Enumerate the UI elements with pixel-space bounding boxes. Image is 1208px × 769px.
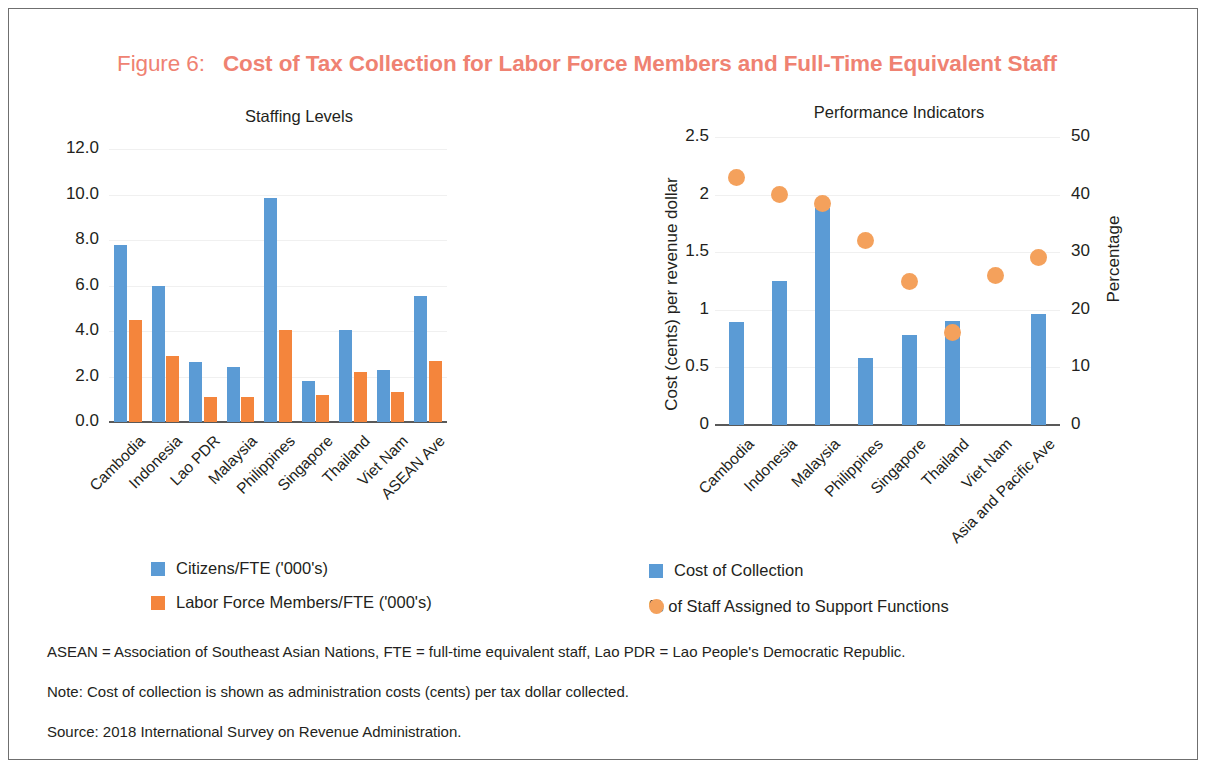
y-axis-tick-label: 2.5: [633, 126, 709, 146]
bar: [1031, 314, 1046, 425]
bar: [729, 322, 744, 425]
y-axis-tick-label: 0.5: [633, 356, 709, 376]
legend-label: Citizens/FTE ('000's): [176, 559, 328, 578]
data-point: [987, 267, 1004, 284]
bar: [264, 198, 277, 422]
figure-frame: Figure 6:Cost of Tax Collection for Labo…: [8, 8, 1198, 760]
legend-item: Cost of Collection: [649, 561, 803, 580]
y-axis-tick-label: 2.0: [23, 366, 99, 386]
gridline: [715, 367, 1060, 368]
footnote-note: Note: Cost of collection is shown as adm…: [47, 683, 629, 700]
data-point: [944, 324, 961, 341]
bar: [227, 367, 240, 422]
y-axis-tick-label: 10.0: [23, 184, 99, 204]
figure-title: Figure 6:Cost of Tax Collection for Labo…: [117, 51, 1097, 83]
legend-circle-icon: [649, 599, 664, 614]
data-point: [857, 232, 874, 249]
bar: [772, 281, 787, 425]
y-axis-tick-label: 8.0: [23, 229, 99, 249]
data-point: [901, 273, 918, 290]
y-axis-title-cost: Cost (cents) per revenue dollar: [662, 169, 682, 419]
y-axis-tick-label: 0.0: [23, 411, 99, 431]
legend-square-icon: [151, 562, 165, 576]
bar: [414, 296, 427, 422]
data-point: [728, 169, 745, 186]
y2-axis-tick-label: 0: [1071, 414, 1131, 434]
bar: [429, 361, 442, 422]
footnote-source: Source: 2018 International Survey on Rev…: [47, 723, 461, 740]
chart-staffing-levels: Staffing Levels CambodiaIndonesiaLao PDR…: [9, 99, 569, 549]
x-axis-line: [715, 424, 1060, 426]
y-axis-tick-label: 1.5: [633, 241, 709, 261]
legend-item: % of Staff Assigned to Support Functions: [649, 597, 949, 616]
bar: [354, 372, 367, 422]
y2-axis-tick-label: 30: [1071, 241, 1131, 261]
bar: [166, 356, 179, 422]
data-point: [771, 186, 788, 203]
legend-label: Labor Force Members/FTE ('000's): [176, 593, 432, 612]
chart-title-staffing: Staffing Levels: [89, 107, 509, 126]
bar: [391, 392, 404, 422]
gridline: [109, 240, 447, 241]
bar: [815, 208, 830, 425]
data-point: [814, 195, 831, 212]
bar: [189, 362, 202, 422]
legend-square-icon: [151, 596, 165, 610]
y2-axis-tick-label: 20: [1071, 299, 1131, 319]
figure-title-text: Cost of Tax Collection for Labor Force M…: [223, 51, 1057, 76]
legend-square-icon: [649, 564, 663, 578]
bar: [316, 395, 329, 422]
legend-item: Citizens/FTE ('000's): [151, 559, 328, 578]
bar: [339, 330, 352, 422]
bar: [902, 335, 917, 425]
legend-item: Labor Force Members/FTE ('000's): [151, 593, 432, 612]
chart-title-performance: Performance Indicators: [709, 103, 1089, 122]
bar: [241, 397, 254, 422]
y2-axis-tick-label: 50: [1071, 126, 1131, 146]
y2-axis-tick-label: 40: [1071, 184, 1131, 204]
gridline: [715, 137, 1060, 138]
plot-area-performance: [715, 137, 1060, 425]
footnote-abbreviations: ASEAN = Association of Southeast Asian N…: [47, 643, 905, 660]
bar: [204, 397, 217, 422]
gridline: [715, 310, 1060, 311]
bar: [858, 358, 873, 425]
y-axis-tick-label: 12.0: [23, 138, 99, 158]
y-axis-tick-label: 1: [633, 299, 709, 319]
gridline: [109, 149, 447, 150]
gridline: [715, 195, 1060, 196]
gridline: [109, 195, 447, 196]
legend-label: % of Staff Assigned to Support Functions: [649, 597, 949, 616]
bar: [302, 381, 315, 422]
y-axis-tick-label: 6.0: [23, 275, 99, 295]
y-axis-tick-label: 0: [633, 414, 709, 434]
gridline: [715, 252, 1060, 253]
data-point: [1030, 249, 1047, 266]
bar: [377, 370, 390, 422]
y2-axis-tick-label: 10: [1071, 356, 1131, 376]
legend-label: Cost of Collection: [674, 561, 803, 580]
bar: [129, 320, 142, 422]
bar: [279, 330, 292, 422]
plot-area-staffing: [109, 149, 447, 422]
bar: [114, 245, 127, 422]
chart-performance-indicators: Performance Indicators Cost (cents) per …: [609, 99, 1199, 549]
y-axis-tick-label: 4.0: [23, 320, 99, 340]
bar: [152, 286, 165, 423]
figure-number: Figure 6:: [117, 51, 205, 76]
y-axis-tick-label: 2: [633, 184, 709, 204]
